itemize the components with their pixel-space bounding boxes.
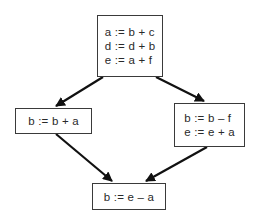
statement-list: b := b – f e := e + a [184, 111, 235, 139]
statement: e := a + f [105, 53, 156, 67]
statement-list: a := b + c d := d + b e := a + f [105, 25, 156, 67]
statement: a := b + c [105, 25, 156, 39]
basic-block-b2: b := b + a [15, 108, 92, 134]
statement: b := b – f [184, 111, 235, 125]
flow-graph-canvas: a := b + c d := d + b e := a + f b := b … [0, 0, 255, 221]
basic-block-b3: b := b – f e := e + a [174, 103, 245, 147]
statement: d := d + b [105, 39, 156, 53]
edge-b3-to-b4 [146, 147, 207, 181]
statement: b := e – a [104, 190, 154, 204]
basic-block-b4: b := e – a [92, 183, 166, 210]
edge-b1-to-b3 [156, 77, 204, 101]
statement: e := e + a [184, 125, 235, 139]
basic-block-b1: a := b + c d := d + b e := a + f [97, 15, 163, 77]
edge-b1-to-b2 [56, 77, 103, 106]
statement: b := b + a [28, 114, 79, 128]
edge-b2-to-b4 [56, 134, 112, 181]
